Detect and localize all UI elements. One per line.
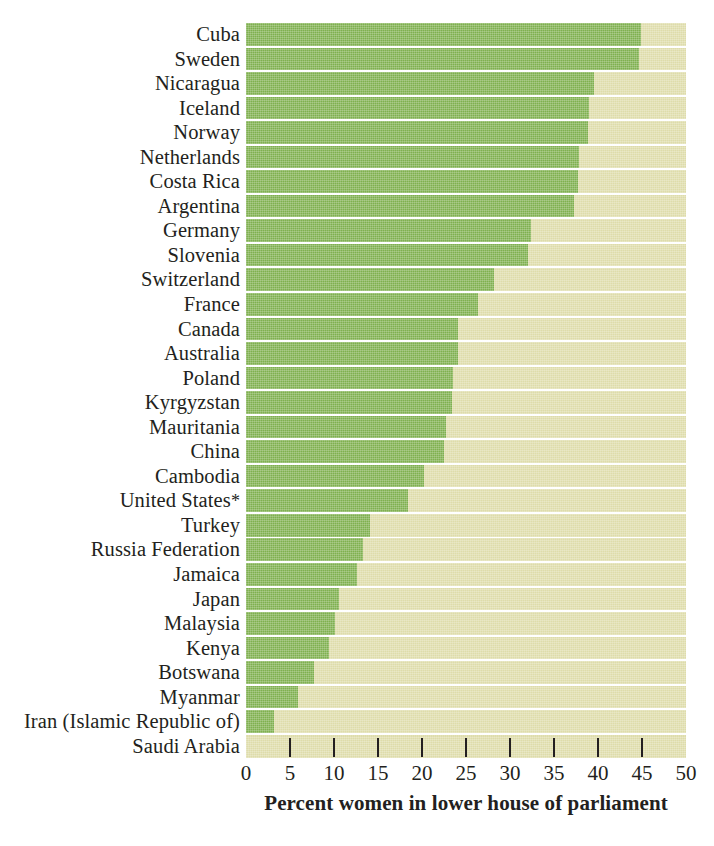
country-label: China [0, 439, 246, 464]
country-label: Canada [0, 317, 246, 342]
bar-track [246, 637, 686, 660]
bar-fill [246, 710, 274, 733]
bar-fill [246, 318, 458, 341]
bar-track [246, 588, 686, 611]
bar-track [246, 268, 686, 291]
bar-track [246, 146, 686, 169]
axis-tick-label: 10 [324, 760, 345, 786]
bar-fill [246, 465, 424, 488]
chart-row: Turkey [0, 513, 714, 538]
country-label: Iran (Islamic Republic of) [0, 709, 246, 734]
bar-fill [246, 514, 370, 537]
bar-track [246, 318, 686, 341]
axis-tick-label: 5 [285, 760, 296, 786]
chart-row: Argentina [0, 194, 714, 219]
chart-row: China [0, 439, 714, 464]
country-label: Kenya [0, 636, 246, 661]
country-label: Kyrgyzstan [0, 390, 246, 415]
bar-fill [246, 391, 452, 414]
chart-row: Japan [0, 587, 714, 612]
bar-track [246, 367, 686, 390]
bar-track [246, 244, 686, 267]
chart-row: Norway [0, 120, 714, 145]
chart-row: Costa Rica [0, 169, 714, 194]
bar-track [246, 97, 686, 120]
chart-row: Kenya [0, 636, 714, 661]
country-label: Saudi Arabia [0, 734, 246, 759]
bar-fill [246, 244, 528, 267]
bar-track [246, 48, 686, 71]
chart-row: Canada [0, 317, 714, 342]
bar-fill [246, 367, 453, 390]
chart-row: Cambodia [0, 464, 714, 489]
chart-row: Myanmar [0, 685, 714, 710]
x-axis-title: Percent women in lower house of parliame… [264, 791, 668, 816]
bar-track [246, 72, 686, 95]
axis-tick [421, 738, 423, 757]
country-label: Russia Federation [0, 537, 246, 562]
x-axis: 05101520253035404550 Percent women in lo… [246, 736, 686, 846]
country-label: Poland [0, 366, 246, 391]
axis-tick [509, 738, 511, 757]
country-label: Sweden [0, 47, 246, 72]
footnote-marker: * [231, 491, 240, 511]
chart-rows: CubaSwedenNicaraguaIcelandNorwayNetherla… [0, 22, 714, 736]
bar-track [246, 391, 686, 414]
country-label: Cuba [0, 22, 246, 47]
chart-row: Cuba [0, 22, 714, 47]
chart-row: Poland [0, 366, 714, 391]
bar-track [246, 489, 686, 512]
bar-track [246, 465, 686, 488]
bar-track [246, 710, 686, 733]
bar-fill [246, 612, 335, 635]
country-label: Malaysia [0, 611, 246, 636]
bar-fill [246, 637, 329, 660]
chart-row: Germany [0, 218, 714, 243]
axis-tick [333, 738, 335, 757]
chart-row: Malaysia [0, 611, 714, 636]
bar-fill [246, 195, 574, 218]
bar-fill [246, 219, 531, 242]
country-label: Argentina [0, 194, 246, 219]
bar-fill [246, 97, 589, 120]
bar-fill [246, 342, 458, 365]
country-label: Germany [0, 218, 246, 243]
bar-track [246, 661, 686, 684]
bar-fill [246, 416, 446, 439]
country-label: France [0, 292, 246, 317]
axis-tick [377, 738, 379, 757]
bar-fill [246, 440, 444, 463]
chart-row: France [0, 292, 714, 317]
chart-row: Switzerland [0, 267, 714, 292]
country-label: Costa Rica [0, 169, 246, 194]
country-label: Turkey [0, 513, 246, 538]
axis-tick-label: 50 [676, 760, 697, 786]
bar-track [246, 219, 686, 242]
chart-row: Sweden [0, 47, 714, 72]
axis-tick-label: 15 [368, 760, 389, 786]
country-label: Norway [0, 120, 246, 145]
axis-tick [553, 738, 555, 757]
bar-fill [246, 588, 339, 611]
bar-track [246, 195, 686, 218]
chart-row: Kyrgyzstan [0, 390, 714, 415]
bar-track [246, 293, 686, 316]
chart-row: Iran (Islamic Republic of) [0, 709, 714, 734]
bar-fill [246, 686, 298, 709]
bar-fill [246, 538, 363, 561]
country-label: Netherlands [0, 145, 246, 170]
chart-row: Australia [0, 341, 714, 366]
bar-fill [246, 170, 578, 193]
bar-track [246, 538, 686, 561]
bar-fill [246, 48, 639, 71]
bar-fill [246, 268, 494, 291]
country-label: Australia [0, 341, 246, 366]
axis-tick-label: 0 [241, 760, 252, 786]
bar-fill [246, 293, 478, 316]
axis-tick [597, 738, 599, 757]
axis-tick [289, 738, 291, 757]
chart-row: United States* [0, 488, 714, 513]
bar-track [246, 563, 686, 586]
country-label: Myanmar [0, 685, 246, 710]
axis-tick [641, 738, 643, 757]
